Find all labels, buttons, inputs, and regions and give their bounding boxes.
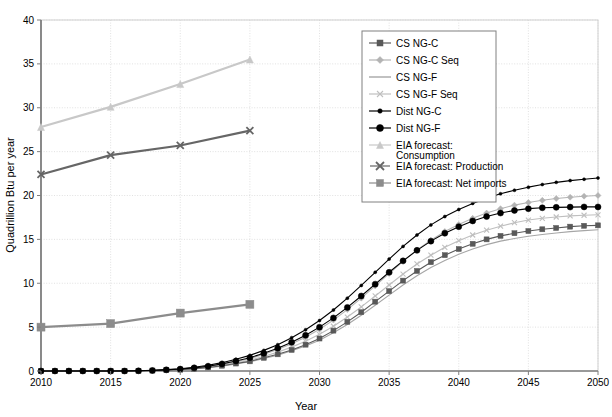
legend: CS NG-CCS NG-C SeqCS NG-FCS NG-F SeqDist… [362, 31, 507, 202]
x-tick-label: 2015 [100, 377, 123, 388]
legend-label: CS NG-C Seq [396, 55, 459, 66]
data-point [53, 370, 56, 373]
y-tick-label: 30 [23, 102, 35, 113]
data-point [248, 354, 251, 357]
data-point [527, 186, 530, 189]
data-point [583, 178, 586, 181]
data-point [246, 300, 254, 308]
legend-label: CS NG-F [396, 72, 437, 83]
data-point [567, 204, 573, 210]
data-point [372, 281, 378, 287]
data-point [511, 207, 517, 213]
data-point [568, 224, 573, 229]
legend-label: EIA forecast:Consumption [396, 140, 455, 161]
chart-background [0, 0, 612, 417]
x-tick-label: 2050 [587, 377, 610, 388]
data-point [498, 210, 504, 216]
data-point [387, 289, 392, 294]
legend-label: EIA forecast: Net imports [396, 178, 507, 189]
data-point [402, 245, 405, 248]
data-point [317, 336, 322, 341]
legend-label: EIA forecast: Production [396, 161, 503, 172]
data-point [569, 179, 572, 182]
data-point [234, 358, 237, 361]
data-point [539, 205, 545, 211]
data-point [303, 332, 309, 338]
data-point [107, 320, 115, 328]
data-point [289, 339, 295, 345]
data-point [512, 231, 517, 236]
y-tick-label: 0 [28, 366, 34, 377]
x-tick-label: 2045 [517, 377, 540, 388]
data-point [374, 271, 377, 274]
data-point [470, 218, 476, 224]
data-point [414, 247, 420, 253]
legend-marker [378, 109, 383, 114]
data-point [526, 229, 531, 234]
x-tick-label: 2020 [169, 377, 192, 388]
data-point [262, 349, 265, 352]
data-point [81, 370, 84, 373]
data-point [346, 297, 349, 300]
data-point [151, 369, 154, 372]
data-point [428, 260, 433, 265]
data-point [67, 370, 70, 373]
data-point [470, 241, 475, 246]
data-point [331, 328, 336, 333]
data-point [443, 215, 446, 218]
legend-marker [377, 125, 384, 132]
data-point [428, 238, 434, 244]
data-point [304, 328, 307, 331]
y-tick-label: 10 [23, 278, 35, 289]
data-point [597, 176, 600, 179]
y-tick-label: 25 [23, 146, 35, 157]
data-point [400, 258, 406, 264]
y-tick-label: 20 [23, 190, 35, 201]
data-point [386, 269, 392, 275]
data-point [456, 247, 461, 252]
data-point [207, 364, 210, 367]
data-point [498, 233, 503, 238]
data-point [415, 233, 418, 236]
data-point [276, 343, 279, 346]
data-point [289, 347, 294, 352]
line-chart: 0510152025303540201020152020202520302035… [0, 0, 612, 417]
y-axis-title: Quadrillion Btu per year [4, 137, 16, 253]
data-point [318, 319, 321, 322]
data-point [388, 258, 391, 261]
y-tick-label: 5 [28, 322, 34, 333]
y-tick-label: 35 [23, 58, 35, 69]
data-point [179, 367, 182, 370]
data-point [165, 368, 168, 371]
chart-container: 0510152025303540201020152020202520302035… [0, 0, 612, 417]
data-point [442, 253, 447, 258]
data-point [554, 225, 559, 230]
legend-label: CS NG-C [396, 38, 438, 49]
data-point [429, 223, 432, 226]
x-tick-label: 2030 [308, 377, 331, 388]
data-point [275, 352, 280, 357]
data-point [303, 342, 308, 347]
data-point [358, 293, 364, 299]
data-point [596, 223, 601, 228]
x-tick-label: 2040 [448, 377, 471, 388]
data-point [553, 204, 559, 210]
legend-label: Dist NG-F [396, 123, 440, 134]
x-tick-label: 2010 [30, 377, 53, 388]
data-point [359, 310, 364, 315]
data-point [484, 214, 490, 220]
data-point [317, 324, 323, 330]
data-point [525, 206, 531, 212]
data-point [442, 230, 448, 236]
legend-label: CS NG-F Seq [396, 89, 458, 100]
data-point [401, 278, 406, 283]
x-axis-title: Year [295, 400, 318, 412]
y-tick-label: 40 [23, 15, 35, 26]
data-point [457, 208, 460, 211]
data-point [290, 336, 293, 339]
data-point [582, 223, 587, 228]
data-point [513, 189, 516, 192]
data-point [484, 237, 489, 242]
data-point [221, 361, 224, 364]
y-tick-label: 15 [23, 234, 35, 245]
